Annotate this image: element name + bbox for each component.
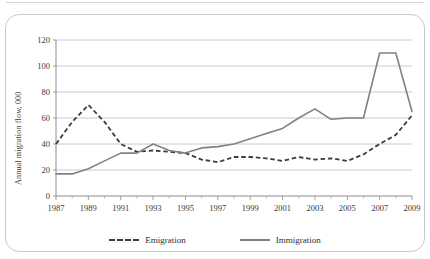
chart-legend: Emigration Immigration	[0, 232, 430, 248]
x-tick-label-1993: 1993	[145, 203, 162, 213]
legend-solid-line-swatch	[240, 239, 270, 241]
series-line-emigration	[56, 105, 412, 162]
y-tick-label-40: 40	[42, 139, 51, 149]
y-tick-label-80: 80	[42, 87, 51, 97]
x-tick-label-1999: 1999	[242, 203, 259, 213]
x-tick-label-1997: 1997	[209, 203, 226, 213]
y-tick-label-120: 120	[37, 35, 50, 45]
y-axis-title: Annual migration flow, 000	[14, 92, 23, 185]
figure-container: 0204060801001201987198919911993199519971…	[0, 0, 430, 259]
x-tick-label-2007: 2007	[371, 203, 388, 213]
chart-plot-area: 0204060801001201987198919911993199519971…	[0, 0, 430, 259]
y-tick-label-100: 100	[37, 61, 50, 71]
x-tick-label-1995: 1995	[177, 203, 194, 213]
x-tick-label-1987: 1987	[48, 203, 65, 213]
y-tick-label-0: 0	[46, 191, 50, 201]
x-tick-label-1989: 1989	[80, 203, 97, 213]
legend-label-emigration: Emigration	[145, 235, 186, 245]
line-chart-svg: 0204060801001201987198919911993199519971…	[0, 0, 430, 259]
legend-item-emigration[interactable]: Emigration	[109, 235, 186, 245]
y-tick-label-20: 20	[42, 165, 51, 175]
x-tick-label-2003: 2003	[306, 203, 323, 213]
legend-dashed-line-swatch	[109, 239, 139, 241]
x-tick-label-2001: 2001	[274, 203, 291, 213]
y-tick-label-60: 60	[42, 113, 51, 123]
x-tick-label-1991: 1991	[112, 203, 129, 213]
x-tick-label-2005: 2005	[339, 203, 356, 213]
legend-label-immigration: Immigration	[276, 235, 321, 245]
x-tick-label-2009: 2009	[404, 203, 421, 213]
legend-item-immigration[interactable]: Immigration	[240, 235, 321, 245]
